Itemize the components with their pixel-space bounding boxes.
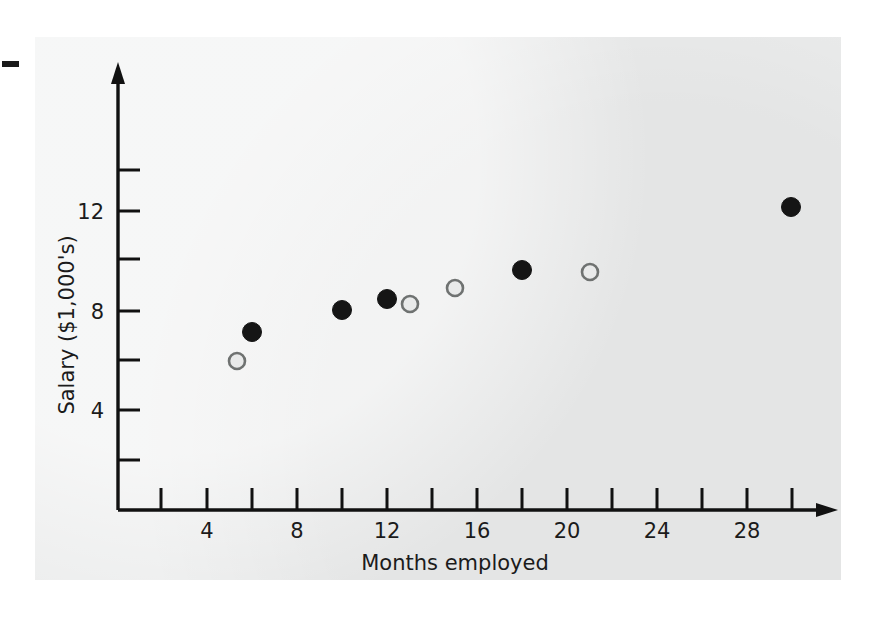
x-axis-ticks xyxy=(161,488,792,510)
y-ticklabel-12: 12 xyxy=(77,200,104,224)
y-axis xyxy=(111,62,125,510)
data-point[interactable] xyxy=(447,280,463,296)
data-point[interactable] xyxy=(243,323,262,342)
y-ticklabel-8: 8 xyxy=(91,300,104,324)
series-filled xyxy=(243,198,801,342)
x-ticklabel-8: 8 xyxy=(290,519,303,543)
x-ticklabel-4: 4 xyxy=(200,519,213,543)
scatter-plot: 12 8 4 4 8 12 16 20 xyxy=(0,0,876,618)
data-point[interactable] xyxy=(229,353,245,369)
data-point[interactable] xyxy=(333,301,352,320)
x-ticklabel-12: 12 xyxy=(374,519,401,543)
data-point[interactable] xyxy=(782,198,801,217)
x-ticklabel-16: 16 xyxy=(464,519,491,543)
data-point[interactable] xyxy=(513,261,532,280)
data-point[interactable] xyxy=(582,264,598,280)
x-ticklabel-24: 24 xyxy=(644,519,671,543)
data-point[interactable] xyxy=(378,290,397,309)
y-axis-ticklabels: 12 8 4 xyxy=(77,200,104,423)
x-axis-title: Months employed xyxy=(361,551,549,575)
y-ticklabel-4: 4 xyxy=(91,399,104,423)
data-point[interactable] xyxy=(402,296,418,312)
series-open xyxy=(229,264,598,369)
y-axis-ticks xyxy=(118,170,140,460)
figure-container: 12 8 4 4 8 12 16 20 xyxy=(0,0,876,618)
y-axis-title: Salary ($1,000's) xyxy=(55,235,79,414)
x-ticklabel-28: 28 xyxy=(734,519,761,543)
x-ticklabel-20: 20 xyxy=(554,519,581,543)
x-axis-ticklabels: 4 8 12 16 20 24 28 xyxy=(200,519,760,543)
